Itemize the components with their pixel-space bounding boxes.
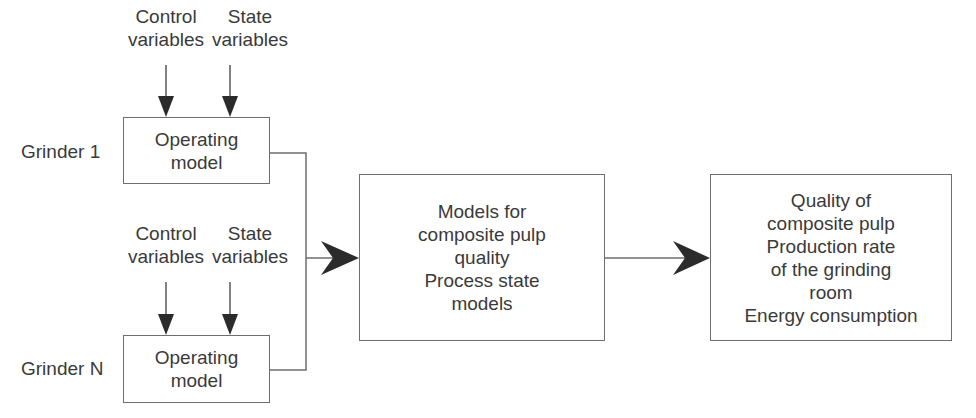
label-line: variables: [200, 28, 300, 51]
grinder1-control-variables-label: Control variables: [120, 5, 212, 51]
grindern-state-variables-label: State variables: [200, 222, 300, 268]
grinder1-operating-model-box: Operating model: [123, 117, 270, 184]
box-line: composite pulp: [767, 212, 895, 235]
grindern-control-variables-label: Control variables: [120, 222, 212, 268]
label-line: Control: [120, 222, 212, 245]
arrow-head-state-1: [222, 96, 238, 117]
composite-models-box: Models for composite pulp quality Proces…: [359, 174, 605, 341]
arrow-head-control-1: [158, 96, 174, 117]
label-line: variables: [200, 245, 300, 268]
box-line: room: [809, 281, 852, 304]
grinder1-state-variables-label: State variables: [200, 5, 300, 51]
box-line: Process state: [424, 269, 539, 292]
output-box: Quality of composite pulp Production rat…: [710, 174, 952, 341]
grinder1-label: Grinder 1: [21, 140, 100, 163]
label-line: Control: [120, 5, 212, 28]
label-line: variables: [120, 245, 212, 268]
box-line: models: [451, 292, 512, 315]
box-line: Operating: [155, 346, 238, 369]
label-line: variables: [120, 28, 212, 51]
box-line: Production rate: [767, 235, 896, 258]
box-line: Models for: [438, 200, 527, 223]
arrow-head-state-n: [222, 314, 238, 335]
arrow-head-control-n: [158, 314, 174, 335]
box-line: Operating: [155, 128, 238, 151]
box-line: model: [171, 151, 223, 174]
grindern-operating-model-box: Operating model: [123, 335, 270, 403]
label-line: State: [200, 5, 300, 28]
box-line: Quality of: [791, 189, 871, 212]
box-line: model: [171, 369, 223, 392]
box-line: of the grinding: [771, 258, 891, 281]
box-line: quality: [455, 246, 510, 269]
label-line: State: [200, 222, 300, 245]
box-line: composite pulp: [418, 223, 546, 246]
box-line: Energy consumption: [744, 304, 917, 327]
grindern-label: Grinder N: [21, 357, 103, 380]
